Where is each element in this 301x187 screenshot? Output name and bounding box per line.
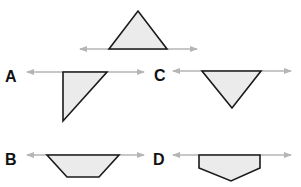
option-c-label: C	[154, 68, 166, 84]
option-a-shape	[63, 72, 107, 121]
option-a-label: A	[5, 69, 17, 85]
original-triangle	[109, 11, 167, 49]
reflection-diagram	[0, 0, 301, 187]
option-d-label: D	[153, 152, 165, 168]
option-d-shape	[199, 155, 260, 181]
option-b-shape	[47, 155, 119, 177]
option-b-label: B	[5, 152, 17, 168]
option-c-shape	[202, 71, 261, 108]
